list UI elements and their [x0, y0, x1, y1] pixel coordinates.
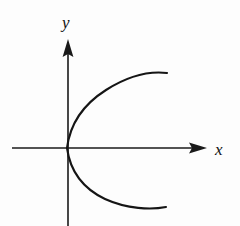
parabola-figure: x y: [0, 0, 240, 226]
y-axis-label: y: [60, 13, 70, 32]
parabola-upper-branch: [67, 73, 167, 148]
figure-canvas: x y: [0, 0, 240, 226]
parabola-lower-branch: [67, 148, 166, 208]
x-axis-label: x: [214, 140, 223, 159]
